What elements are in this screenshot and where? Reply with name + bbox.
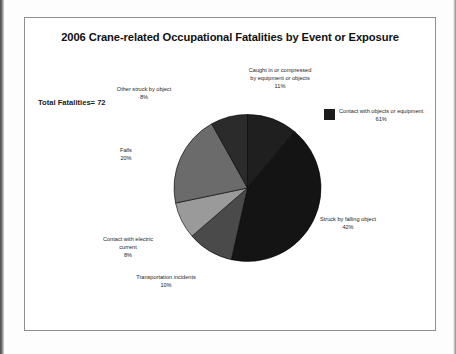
slice-label-caught-in-or-compressed: Caught in or compressed by equipment or …: [228, 67, 332, 91]
legend-swatch-contact-with-objects: [324, 109, 335, 120]
slice-percent: 20%: [104, 155, 148, 163]
slice-label-contact-with-electric-current: Contact with electric current 8%: [86, 236, 170, 260]
legend-percent: 61%: [339, 116, 423, 124]
slice-label-line1: Transportation incidents: [136, 274, 196, 280]
slice-label-line1: Struck by falling object: [320, 216, 376, 222]
slice-percent: 10%: [114, 282, 218, 290]
chart-frame: 2006 Crane-related Occupational Fataliti…: [24, 17, 436, 331]
legend-label-text: Contact with objects or equipment: [339, 108, 423, 114]
slice-label-line2: by equipment or objects: [250, 75, 309, 81]
slice-label-line1: Other struck by object: [117, 86, 171, 92]
slice-percent: 8%: [96, 94, 192, 102]
slice-label-struck-by-falling-object: Struck by falling object 42%: [300, 216, 396, 232]
slice-label-other-struck-by-object: Other struck by object 8%: [96, 86, 192, 102]
slice-label-line1: Caught in or compressed: [249, 67, 312, 73]
slice-label-line2: current: [119, 244, 136, 250]
slice-label-transportation-incidents: Transportation incidents 10%: [114, 274, 218, 290]
slice-label-line1: Contact with electric: [103, 236, 153, 242]
chart-title: 2006 Crane-related Occupational Fataliti…: [25, 31, 435, 43]
slice-percent: 11%: [228, 83, 332, 91]
slice-percent: 8%: [86, 252, 170, 260]
slice-percent: 42%: [300, 224, 396, 232]
slice-label-line1: Falls: [120, 147, 132, 153]
legend-label-contact-with-objects: Contact with objects or equipment 61%: [339, 108, 423, 124]
slice-label-falls: Falls 20%: [104, 147, 148, 163]
chart-legend: Contact with objects or equipment 61%: [324, 108, 423, 124]
